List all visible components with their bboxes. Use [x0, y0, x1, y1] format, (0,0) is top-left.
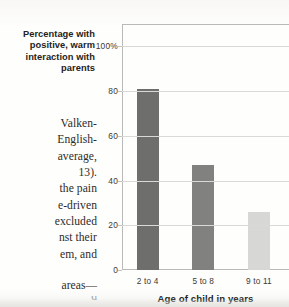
gridline: [122, 91, 289, 92]
body-line: 13).: [0, 165, 97, 181]
body-line: Valken-: [0, 116, 97, 132]
body-paragraph: Valken- English- average, 13). the pain …: [0, 116, 97, 263]
chart-y-axis-label: Percentage with positive, warm interacti…: [0, 29, 95, 74]
body-line: excluded: [0, 214, 97, 230]
y-tick-mark: [118, 270, 122, 271]
y-tick-label: 0: [113, 265, 118, 275]
bar: [137, 89, 159, 270]
gridline: [122, 46, 289, 47]
y-tick-mark: [118, 225, 122, 226]
x-tick-label: 2 to 4: [137, 276, 159, 286]
gridline: [122, 136, 289, 137]
book-page: and to Percentage with positive, warm in…: [0, 0, 289, 307]
chart-x-axis-label: Age of child in years: [122, 293, 289, 304]
clipped-bottom-text-line: d: [0, 296, 97, 306]
clipped-top-text-line: and to: [8, 0, 82, 5]
y-tick-label: 40: [108, 176, 118, 186]
gridline: [122, 225, 289, 226]
bar-chart: 020406080100%2 to 45 to 89 to 11 Age of …: [104, 14, 289, 307]
x-tick-label: 9 to 11: [246, 276, 272, 286]
body-line: e-driven: [0, 198, 97, 214]
y-tick-label: 100%: [96, 41, 118, 51]
y-tick-label: 60: [108, 131, 118, 141]
y-tick-mark: [118, 136, 122, 137]
body-line-tail: areas—: [0, 278, 97, 294]
gridline: [122, 181, 289, 182]
body-line: average,: [0, 149, 97, 165]
body-line: em, and: [0, 247, 97, 263]
y-tick-label: 20: [108, 220, 118, 230]
y-tick-label: 80: [108, 86, 118, 96]
y-tick-mark: [118, 181, 122, 182]
bar: [248, 212, 270, 270]
y-tick-mark: [118, 91, 122, 92]
bar-series: [122, 24, 289, 270]
body-line: the pain: [0, 181, 97, 197]
plot-area: 020406080100%2 to 45 to 89 to 11: [122, 24, 289, 270]
x-tick-label: 5 to 8: [192, 276, 214, 286]
y-tick-mark: [118, 46, 122, 47]
body-line: English-: [0, 132, 97, 148]
body-line: nst their: [0, 230, 97, 246]
